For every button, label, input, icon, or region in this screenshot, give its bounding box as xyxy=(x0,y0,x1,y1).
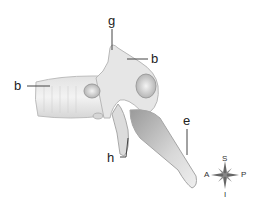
label-b-upper: b xyxy=(151,52,158,65)
label-g: g xyxy=(108,14,115,27)
vertebra-illustration xyxy=(0,0,259,205)
label-h: h xyxy=(107,151,114,164)
compass-rose-icon xyxy=(211,161,239,189)
compass-label-posterior: P xyxy=(241,171,246,179)
compass-label-superior: S xyxy=(222,155,227,163)
vertebra-diagram: g b b e h S I A P xyxy=(0,0,259,205)
compass-label-inferior: I xyxy=(224,191,226,199)
label-b-left: b xyxy=(14,79,21,92)
compass-label-anterior: A xyxy=(204,171,209,179)
label-e: e xyxy=(183,114,190,127)
